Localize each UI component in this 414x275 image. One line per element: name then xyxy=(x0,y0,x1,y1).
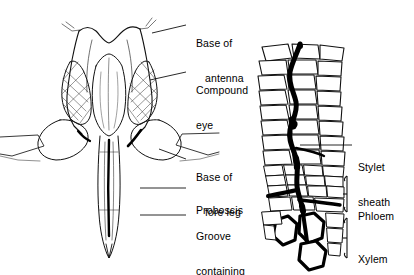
label-groove-containing-stylet-bundle: Groove containing stylet bundle xyxy=(196,208,245,275)
clypeus-inner-right xyxy=(114,72,118,128)
stylet-groove-channel xyxy=(108,140,109,236)
stylet-track-node-b xyxy=(296,158,297,163)
stylet-track-swelling-1 xyxy=(290,120,297,127)
parenchyma-cell-row-2 xyxy=(259,60,342,76)
thorax-plate-left xyxy=(0,135,44,156)
clypeus-median-line xyxy=(108,58,109,130)
stylet-groove-edge-right xyxy=(112,142,114,240)
antenna-stub-right-icon xyxy=(140,18,156,29)
head-capsule-outline xyxy=(67,29,152,135)
parenchyma-cell-row-5 xyxy=(260,105,342,121)
frontal-ridge-left xyxy=(87,40,92,92)
proboscis-tip xyxy=(106,244,112,258)
frontal-ridge-right xyxy=(127,40,132,92)
figure-canvas: Base of antenna Compound eye Base of for… xyxy=(0,0,414,275)
plant-tissue-group xyxy=(258,43,345,270)
compound-eye-right-outline xyxy=(128,61,157,124)
compound-eye-left-outline xyxy=(62,61,91,124)
fore-leg-base-left xyxy=(38,120,88,160)
parenchyma-cell-row-3 xyxy=(258,75,341,91)
thorax-seam-left xyxy=(0,156,40,161)
xylem-vessel-3 xyxy=(299,241,326,270)
label-compound-eye: Compound eye xyxy=(196,62,248,154)
stylet-groove-edge-left xyxy=(104,142,106,240)
parenchyma-cell-row-8 xyxy=(263,150,345,166)
clypeus-inner-left xyxy=(100,72,104,128)
label-xylem: Xylem xyxy=(358,231,388,275)
epidermis-cell-row-1 xyxy=(262,44,344,61)
parenchyma-cell-row-6 xyxy=(261,120,343,136)
stylet-track-node-c xyxy=(302,206,303,211)
aphid-head-group xyxy=(0,18,219,258)
leader-base-of-antenna xyxy=(152,25,186,33)
head-thorax-shadow-right xyxy=(128,130,141,146)
head-top-notch xyxy=(79,27,140,43)
stylet-track-swelling-2 xyxy=(294,164,300,170)
antenna-stub-left-icon xyxy=(62,22,80,31)
parenchyma-cell-row-4 xyxy=(259,90,341,106)
stylet-track-entry-point xyxy=(297,43,303,49)
